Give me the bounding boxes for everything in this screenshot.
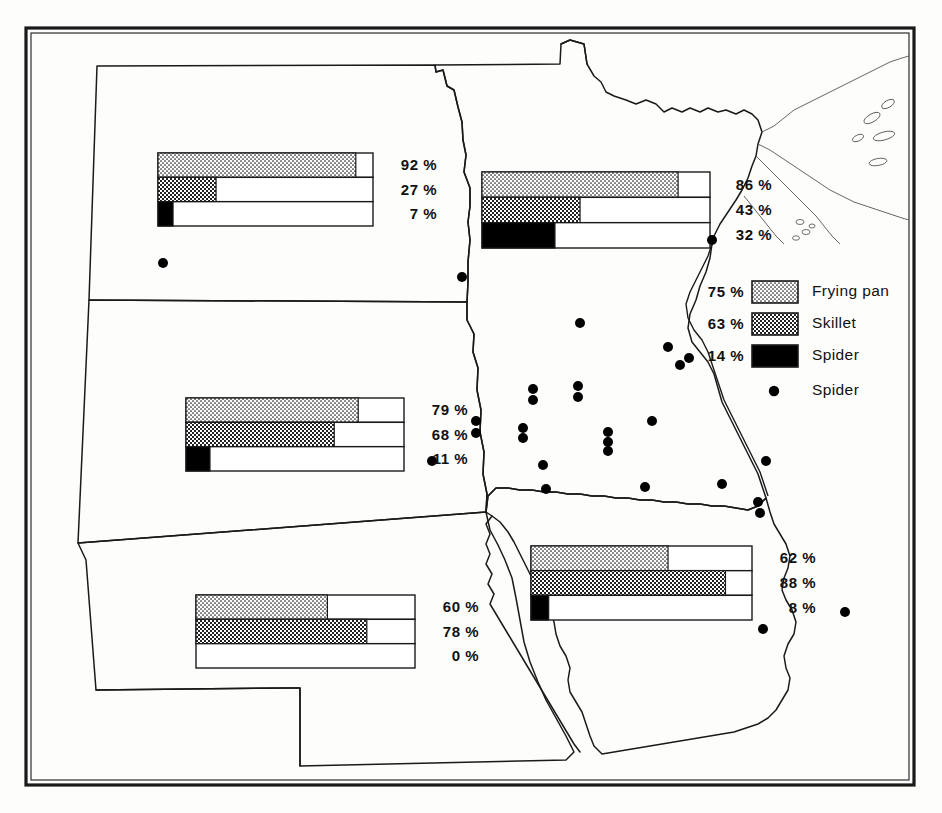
spider-dot (158, 258, 168, 268)
spider-dot (538, 460, 548, 470)
legend-swatch-frying-pan (752, 281, 798, 303)
spider-dot (647, 416, 657, 426)
legend-swatch-skillet (752, 313, 798, 335)
figure-frame (26, 28, 914, 785)
bar-fill-minnesota-frying-pan (482, 172, 678, 197)
bar-fill-iowa-frying-pan (531, 546, 668, 571)
figure-canvas: 92 %27 %7 %86 %43 %32 %79 %68 %11 %60 %7… (0, 0, 942, 813)
legend-swatch-spider (752, 345, 798, 367)
bar-track-south-dakota-2 (186, 447, 404, 471)
nebraska-panhandle-notch (96, 688, 300, 766)
bar-group-south-dakota (186, 398, 404, 471)
spider-dot (663, 342, 673, 352)
spider-dot (518, 423, 528, 433)
spider-dot (840, 607, 850, 617)
bar-track-iowa-2 (531, 595, 752, 620)
bar-fill-nebraska-frying-pan (196, 595, 327, 619)
bar-label-nebraska-frying-pan: 60 % (417, 598, 479, 615)
bar-group-north-dakota (158, 153, 373, 226)
spider-dot (528, 395, 538, 405)
bar-fill-iowa-skillet (531, 571, 725, 596)
lake-islands (793, 97, 896, 240)
bar-label-south-dakota-frying-pan: 79 % (406, 401, 468, 418)
bar-label-iowa-frying-pan: 62 % (754, 549, 816, 566)
spider-dot (640, 482, 650, 492)
bar-group-iowa (531, 546, 752, 620)
legend-layer (752, 281, 798, 396)
spider-dot (603, 427, 613, 437)
legend-label-frying-pan: Frying pan (812, 282, 889, 300)
legend-label-skillet: Skillet (812, 314, 856, 332)
bar-label-south-dakota-spider: 11 % (406, 450, 468, 467)
spider-dot (457, 272, 467, 282)
legend-pct-skillet: 63 % (686, 315, 744, 332)
bar-fill-nebraska-skillet (196, 619, 367, 643)
legend-pct-spider: 14 % (686, 347, 744, 364)
bar-fill-north-dakota-spider (158, 202, 173, 226)
bar-label-south-dakota-skillet: 68 % (406, 426, 468, 443)
bar-fill-minnesota-spider (482, 223, 555, 248)
spider-dot (717, 479, 727, 489)
legend-dot-label: Spider (812, 381, 859, 399)
bar-group-minnesota (482, 172, 710, 248)
bar-label-north-dakota-frying-pan: 92 % (375, 156, 437, 173)
bar-track-north-dakota-2 (158, 202, 373, 226)
spider-dot (758, 624, 768, 634)
bar-fill-south-dakota-frying-pan (186, 398, 358, 422)
spider-dot (471, 428, 481, 438)
legend-pct-frying-pan: 75 % (686, 283, 744, 300)
bar-track-nebraska-2 (196, 644, 415, 668)
spider-dot (471, 416, 481, 426)
bar-label-north-dakota-spider: 7 % (375, 205, 437, 222)
bar-label-iowa-skillet: 88 % (754, 574, 816, 591)
spider-dot (675, 360, 685, 370)
map-svg (0, 0, 942, 813)
spider-dot (573, 381, 583, 391)
bar-label-nebraska-spider: 0 % (417, 647, 479, 664)
spider-dot (603, 446, 613, 456)
bar-fill-minnesota-skillet (482, 197, 580, 222)
spider-dot (528, 384, 538, 394)
bar-fill-iowa-spider (531, 595, 549, 620)
state-outline-minnesota (435, 40, 766, 512)
bar-fill-south-dakota-skillet (186, 422, 334, 446)
spider-dot (761, 456, 771, 466)
bar-label-minnesota-frying-pan: 86 % (710, 176, 772, 193)
bar-fill-south-dakota-spider (186, 447, 210, 471)
bar-label-minnesota-skillet: 43 % (710, 201, 772, 218)
bar-label-iowa-spider: 8 % (754, 599, 816, 616)
spider-dot (755, 508, 765, 518)
bar-label-minnesota-spider: 32 % (710, 226, 772, 243)
state-outline-iowa (486, 488, 796, 754)
bar-fill-north-dakota-skillet (158, 177, 216, 201)
legend-label-spider: Spider (812, 346, 859, 364)
spider-dot (541, 484, 551, 494)
legend-dot-icon (769, 386, 779, 396)
northwest-angle (561, 40, 587, 64)
spider-dot (518, 433, 528, 443)
spider-dot (603, 437, 613, 447)
spider-dot (753, 497, 763, 507)
bar-label-nebraska-skillet: 78 % (417, 623, 479, 640)
bar-fill-north-dakota-frying-pan (158, 153, 356, 177)
bar-group-nebraska (196, 595, 415, 668)
spider-dot (575, 318, 585, 328)
bar-label-north-dakota-skillet: 27 % (375, 181, 437, 198)
spider-dot (573, 392, 583, 402)
